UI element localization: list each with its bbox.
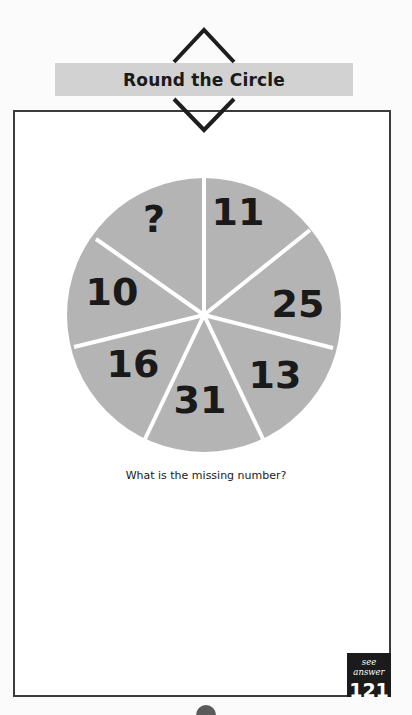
segment-missing: ? xyxy=(143,197,165,241)
see-answer-label: see answer xyxy=(347,657,391,677)
segment-value: 31 xyxy=(174,378,227,422)
chevron-down-icon xyxy=(171,97,237,135)
title-bar: Round the Circle xyxy=(55,63,353,96)
segment-value: 10 xyxy=(86,270,139,314)
chevron-up-icon xyxy=(171,26,237,66)
segment-value: 13 xyxy=(249,353,302,397)
segment-value: 16 xyxy=(107,342,160,386)
segment-value: 25 xyxy=(272,282,325,326)
segment-value: 11 xyxy=(212,190,265,234)
number-wheel: ? 11 25 13 31 16 10 xyxy=(60,170,350,460)
answer-page-number: 121 xyxy=(347,679,391,701)
question-text: What is the missing number? xyxy=(0,469,412,482)
see-answer-badge[interactable]: see answer 121 xyxy=(347,653,391,697)
page-title: Round the Circle xyxy=(123,70,285,90)
page-tab-marker xyxy=(196,705,216,715)
